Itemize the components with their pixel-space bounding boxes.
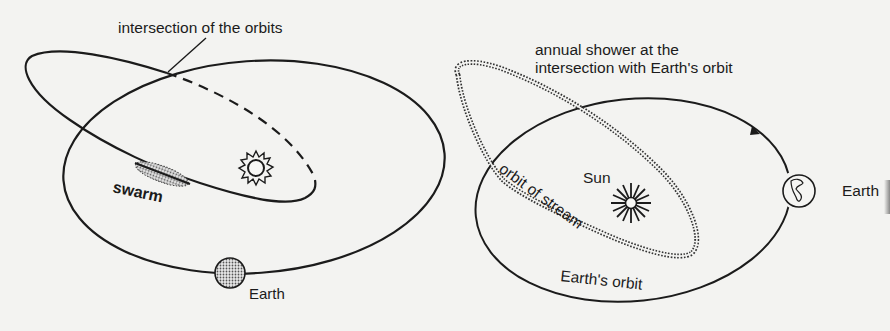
earths-orbit-label: Earth's orbit: [560, 267, 644, 293]
sun-icon: [239, 151, 273, 185]
sun-label: Sun: [583, 169, 611, 186]
sun-rays-icon: [611, 183, 651, 223]
earth-disc-icon: [215, 258, 245, 288]
annual-shower-label-line2: intersection with Earth's orbit: [535, 59, 733, 76]
earth-label-left: Earth: [249, 285, 285, 302]
orbit-of-stream-label: orbit of stream: [496, 160, 586, 232]
earth-globe-icon: [783, 175, 815, 207]
annual-shower-label-line1: annual shower at the: [535, 41, 679, 58]
earth-label-right: Earth: [842, 182, 879, 199]
comet-orbit-dashed: [167, 73, 314, 176]
page-edge-shadow: [884, 180, 890, 214]
meteor-shower-diagram: intersection of the orbits swarm Earth: [0, 0, 890, 331]
swarm-label: swarm: [111, 178, 164, 205]
right-panel: annual shower at the intersection with E…: [457, 41, 879, 317]
intersection-label: intersection of the orbits: [118, 19, 283, 36]
left-panel: intersection of the orbits swarm Earth: [26, 19, 452, 302]
